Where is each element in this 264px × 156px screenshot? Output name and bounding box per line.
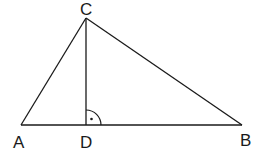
right-angle-dot-icon (90, 118, 93, 121)
label-c: C (80, 0, 92, 19)
segment-bc (86, 18, 242, 125)
segment-ac (21, 18, 86, 125)
label-d: D (80, 133, 92, 152)
label-b: B (240, 131, 251, 150)
right-angle-arc-icon (86, 110, 101, 125)
label-a: A (13, 133, 25, 152)
triangle-diagram: C A D B (0, 0, 264, 156)
